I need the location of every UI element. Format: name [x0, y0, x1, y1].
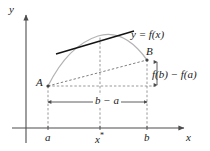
tick-label-b: b: [144, 132, 150, 143]
rise-label: f(b) − f(a): [152, 69, 197, 80]
mvt-figure: y x y = f(x) B A f(b) − f(a) b − a a x* …: [0, 0, 210, 151]
point-a-marker: [46, 84, 49, 87]
point-b-label: B: [146, 46, 153, 57]
tangent-line: [56, 31, 134, 54]
x-axis-label: x: [186, 132, 191, 143]
point-a-label: A: [36, 77, 43, 88]
secant-line: [48, 60, 147, 86]
tick-label-a: a: [45, 132, 51, 143]
function-label: y = f(x): [131, 29, 164, 40]
tick-label-xstar: x*: [95, 132, 104, 145]
run-label: b − a: [93, 95, 121, 106]
y-axis-label: y: [9, 4, 14, 15]
point-b-marker: [145, 58, 148, 61]
tick-label-xstar-star: *: [100, 131, 104, 140]
